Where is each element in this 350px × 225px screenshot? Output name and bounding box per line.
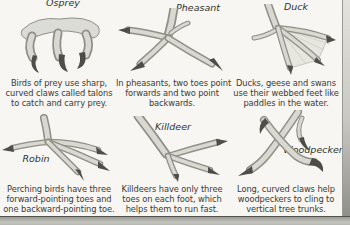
caption-line: toes on each foot, which: [116, 194, 228, 204]
pheasant-foot-illustration: [118, 8, 230, 74]
caption-line: In pheasants, two toes point: [116, 78, 228, 88]
caption-line: to catch and carry prey.: [2, 98, 116, 108]
caption-line: Ducks, geese and swans: [232, 78, 340, 88]
caption-line: forwards and two point: [116, 88, 228, 98]
caption-line: vertical tree trunks.: [232, 204, 340, 214]
duck-webbed-foot-illustration: [234, 4, 336, 76]
bird-feet-diagram-page: Osprey Pheasant Duck Robin Killdeer Wood…: [0, 0, 350, 225]
osprey-talons-illustration: [8, 6, 108, 76]
caption-line: Long, curved claws help: [232, 184, 340, 194]
duck-caption: Ducks, geese and swans use their webbed …: [232, 78, 340, 108]
caption-line: Birds of prey use sharp,: [2, 78, 116, 88]
robin-caption: Perching birds have three forward-pointi…: [0, 184, 118, 214]
caption-line: use their webbed feet like: [232, 88, 340, 98]
woodpecker-claws-illustration: [238, 110, 336, 182]
caption-line: one backward-pointing toe.: [0, 204, 118, 214]
page-edge-right: [342, 0, 350, 217]
robin-foot-illustration: [2, 112, 114, 182]
woodpecker-caption: Long, curved claws help woodpeckers to c…: [232, 184, 340, 214]
caption-line: curved claws called talons: [2, 88, 116, 98]
caption-line: Killdeers have only three: [116, 184, 228, 194]
caption-line: woodpeckers to cling to: [232, 194, 340, 204]
caption-line: forward-pointing toes and: [0, 194, 118, 204]
pheasant-caption: In pheasants, two toes point forwards an…: [116, 78, 228, 108]
caption-line: paddles in the water.: [232, 98, 340, 108]
killdeer-foot-illustration: [118, 116, 230, 182]
osprey-caption: Birds of prey use sharp, curved claws ca…: [2, 78, 116, 108]
caption-line: helps them to run fast.: [116, 204, 228, 214]
caption-line: Perching birds have three: [0, 184, 118, 194]
killdeer-caption: Killdeers have only three toes on each f…: [116, 184, 228, 214]
caption-line: backwards.: [116, 98, 228, 108]
page-bottom-edge: [0, 216, 350, 225]
